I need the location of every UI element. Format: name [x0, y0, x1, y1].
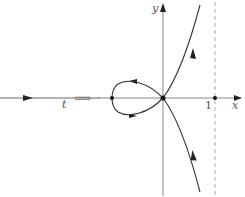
t-label: t: [62, 98, 67, 111]
node-point: [161, 96, 166, 101]
x-axis-label: x: [232, 99, 239, 112]
t-line-arrow-icon: [23, 95, 33, 101]
tick-label-1: 1: [205, 99, 212, 112]
point-x-1: [213, 96, 217, 100]
curve-arrow-upper-icon: [190, 48, 196, 59]
x-axis: [98, 95, 242, 101]
loop-left-point: [110, 96, 114, 100]
y-axis-label: y: [151, 2, 159, 15]
y-axis-arrow-icon: [160, 3, 166, 12]
implies-symbol: ⟹: [74, 91, 91, 105]
diagram: t ⟹ x y 1: [0, 0, 245, 197]
